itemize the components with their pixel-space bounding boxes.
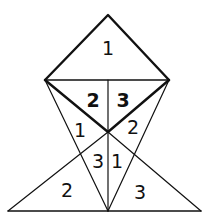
label-center-right: 1 — [111, 150, 123, 172]
label-bottom-right: 3 — [134, 181, 146, 203]
dissection-diagram: 1 2 3 1 2 3 1 2 3 — [0, 0, 202, 218]
square-bottom-edges — [45, 80, 169, 132]
label-center-left: 3 — [92, 150, 104, 172]
label-mid-right: 2 — [127, 116, 139, 138]
label-upper-right: 3 — [116, 89, 129, 111]
label-upper-left: 2 — [86, 89, 99, 111]
label-bottom-left: 2 — [61, 179, 73, 201]
label-top: 1 — [102, 37, 114, 59]
label-mid-left: 1 — [74, 119, 86, 141]
